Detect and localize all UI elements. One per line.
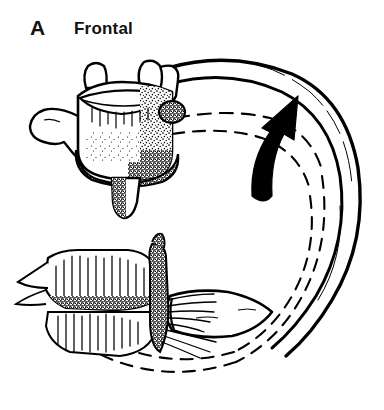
sternum: [16, 234, 216, 358]
spinous-process: [108, 176, 140, 222]
rib-elevation-arrow: [252, 96, 298, 201]
drawing-ink: [16, 60, 360, 372]
vertebral-body: [78, 82, 180, 186]
costal-facet: [159, 101, 185, 123]
vertebra: [30, 61, 185, 222]
figure-panel: A Frontal: [0, 0, 384, 410]
anatomy-illustration: [0, 0, 384, 410]
